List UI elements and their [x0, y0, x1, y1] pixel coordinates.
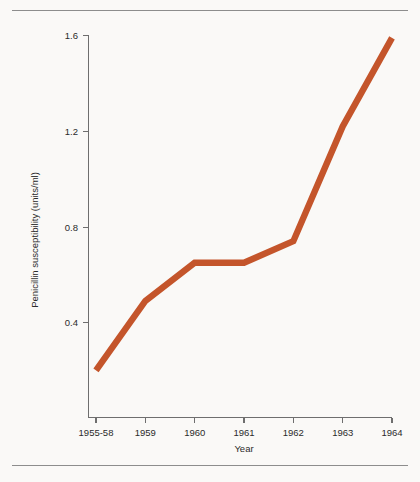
y-axis-title: Penicillin susceptibility (units/ml): [29, 172, 40, 308]
x-tick-label-5: 1963: [332, 427, 353, 438]
y-tick-label-1.6: 1.6: [65, 30, 78, 41]
y-tick-label-0.4: 0.4: [65, 317, 78, 328]
x-tick-label-3: 1961: [233, 427, 254, 438]
data-series-line: [96, 38, 392, 370]
x-tick-label-6: 1964: [381, 427, 402, 438]
line-chart-plot: 1.6 1.2 0.8 0.4 Penicillin susceptibilit…: [0, 0, 420, 482]
x-tick-label-1: 1959: [135, 427, 156, 438]
x-tick-label-0: 1955-58: [79, 427, 114, 438]
y-tick-label-1.2: 1.2: [65, 126, 78, 137]
x-tick-label-2: 1960: [184, 427, 205, 438]
chart-figure: 1.6 1.2 0.8 0.4 Penicillin susceptibilit…: [0, 0, 420, 482]
y-tick-label-0.8: 0.8: [65, 222, 78, 233]
x-axis-title: Year: [234, 443, 253, 454]
x-tick-label-4: 1962: [283, 427, 304, 438]
